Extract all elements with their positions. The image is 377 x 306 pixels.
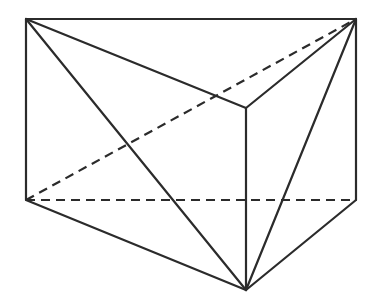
edge-bottom-front-to-bottom-right — [246, 200, 356, 290]
edge-top-right-to-bottom-front — [246, 19, 356, 290]
edge-top-front-to-top-right — [246, 19, 356, 108]
edge-top-left-to-top-front — [26, 19, 246, 108]
prism-diagram — [0, 0, 377, 306]
hidden-edge-bottom-left-to-top-right — [26, 19, 356, 200]
edge-top-left-to-bottom-front — [26, 19, 246, 290]
edge-bottom-left-to-bottom-front — [26, 200, 246, 290]
triangular-prism-figure — [0, 0, 377, 306]
